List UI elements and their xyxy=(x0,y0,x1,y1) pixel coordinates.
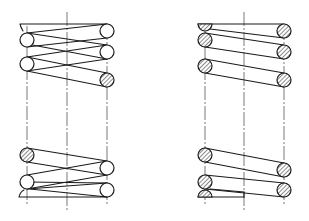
right-spring-coil-section-hatched xyxy=(277,45,291,59)
right-spring-coil-half-section-hatched xyxy=(198,24,212,31)
right-spring-coil-section-hatched xyxy=(277,24,291,38)
left-spring xyxy=(19,12,114,212)
left-spring-coil-section xyxy=(20,175,34,189)
left-spring-coil-section xyxy=(100,161,114,175)
right-spring-coil-section-hatched xyxy=(198,148,212,162)
right-spring-coil-section-hatched xyxy=(198,59,212,73)
left-spring-coil-section xyxy=(100,24,114,38)
left-spring-coil-section-hatched xyxy=(20,148,34,162)
left-spring-coil-section xyxy=(100,183,114,197)
left-spring-coil-section xyxy=(20,33,34,47)
right-spring xyxy=(198,12,291,212)
right-spring-coil-section-hatched xyxy=(277,73,291,87)
right-spring-coil-section-hatched xyxy=(198,33,212,47)
right-spring-coil-half-section-hatched xyxy=(198,190,212,197)
spring-drawing xyxy=(0,0,309,221)
left-spring-coil-section xyxy=(100,45,114,59)
left-spring-coil-section xyxy=(20,57,34,71)
left-spring-coil-section-hatched xyxy=(100,73,114,87)
right-spring-coil-section-hatched xyxy=(277,183,291,197)
right-spring-coil-section-hatched xyxy=(198,175,212,189)
right-spring-coil-section-hatched xyxy=(277,163,291,177)
